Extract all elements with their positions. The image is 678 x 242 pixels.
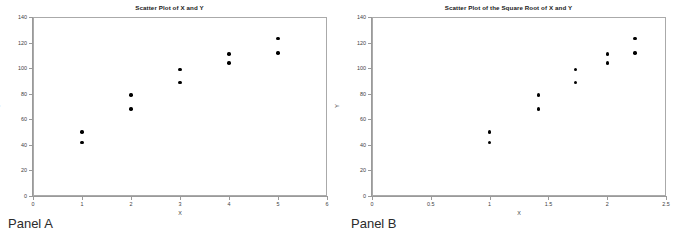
x-axis-line xyxy=(372,196,667,197)
scatter-point xyxy=(80,130,83,133)
x-tick-mark xyxy=(278,197,279,200)
y-tick-label: 140 xyxy=(347,14,366,20)
x-tick-mark xyxy=(607,197,608,200)
x-tick-label: 2 xyxy=(606,201,609,207)
y-tick-mark xyxy=(29,170,32,171)
y-tick-mark xyxy=(368,94,371,95)
y-tick-mark xyxy=(368,119,371,120)
plot-area-panel-b xyxy=(372,17,666,196)
x-tick-mark xyxy=(131,197,132,200)
panel-b: Scatter Plot of the Square Root of X and… xyxy=(339,0,678,242)
x-tick-label: 1 xyxy=(81,201,84,207)
scatter-point xyxy=(80,141,83,144)
x-tick-mark xyxy=(82,197,83,200)
y-tick-mark xyxy=(368,43,371,44)
x-tick-label: 5 xyxy=(277,201,280,207)
x-tick-mark xyxy=(372,197,373,200)
y-tick-mark xyxy=(29,17,32,18)
scatter-point xyxy=(129,93,132,96)
panel-caption: Panel B xyxy=(351,216,397,231)
x-tick-mark xyxy=(548,197,549,200)
x-tick-mark xyxy=(327,197,328,200)
y-tick-mark xyxy=(29,196,32,197)
y-tick-mark xyxy=(29,119,32,120)
x-tick-label: 6 xyxy=(326,201,329,207)
scatter-point xyxy=(129,107,132,110)
x-tick-label: 3 xyxy=(179,201,182,207)
scatter-point xyxy=(488,130,491,133)
y-tick-label: 40 xyxy=(8,142,27,148)
y-tick-label: 80 xyxy=(8,91,27,97)
chart-title: Scatter Plot of the Square Root of X and… xyxy=(339,3,678,12)
x-tick-label: 2.5 xyxy=(662,201,670,207)
scatter-point xyxy=(606,52,609,55)
chart-title: Scatter Plot of X and Y xyxy=(0,3,339,12)
y-tick-label: 20 xyxy=(8,167,27,173)
y-axis-line xyxy=(32,17,33,197)
x-tick-mark xyxy=(666,197,667,200)
scatter-point xyxy=(227,52,230,55)
scatter-point xyxy=(178,68,181,71)
y-tick-label: 60 xyxy=(8,116,27,122)
y-tick-mark xyxy=(29,68,32,69)
scatter-point xyxy=(227,61,230,64)
panel-a: Scatter Plot of X and Y Y X 020406080100… xyxy=(0,0,339,242)
x-tick-mark xyxy=(229,197,230,200)
y-tick-mark xyxy=(368,145,371,146)
y-axis-label: Y xyxy=(334,104,340,108)
x-tick-label: 1.5 xyxy=(545,201,553,207)
y-tick-label: 40 xyxy=(347,142,366,148)
x-tick-mark xyxy=(431,197,432,200)
x-tick-label: 0 xyxy=(371,201,374,207)
y-tick-mark xyxy=(368,17,371,18)
y-tick-mark xyxy=(368,170,371,171)
panel-caption: Panel A xyxy=(8,216,53,231)
y-tick-label: 140 xyxy=(8,14,27,20)
y-tick-label: 120 xyxy=(347,40,366,46)
y-tick-label: 100 xyxy=(347,65,366,71)
y-tick-mark xyxy=(29,94,32,95)
y-tick-label: 0 xyxy=(347,193,366,199)
scatter-point xyxy=(606,61,609,64)
x-tick-label: 0.5 xyxy=(427,201,435,207)
scatter-point xyxy=(537,93,540,96)
y-tick-label: 0 xyxy=(8,193,27,199)
y-tick-label: 60 xyxy=(347,116,366,122)
y-tick-mark xyxy=(368,196,371,197)
y-tick-label: 80 xyxy=(347,91,366,97)
y-tick-label: 100 xyxy=(8,65,27,71)
x-tick-mark xyxy=(490,197,491,200)
y-tick-mark xyxy=(29,145,32,146)
y-axis-label: Y xyxy=(0,104,1,108)
x-tick-mark xyxy=(33,197,34,200)
x-tick-label: 0 xyxy=(32,201,35,207)
scatter-point xyxy=(276,51,279,54)
y-tick-label: 120 xyxy=(8,40,27,46)
y-tick-mark xyxy=(368,68,371,69)
x-tick-label: 1 xyxy=(488,201,491,207)
x-tick-label: 2 xyxy=(130,201,133,207)
x-axis-label: X xyxy=(372,210,666,216)
y-axis-line xyxy=(371,17,372,197)
y-tick-mark xyxy=(29,43,32,44)
plot-area-panel-a xyxy=(33,17,327,196)
scatter-point xyxy=(633,51,636,54)
x-tick-label: 4 xyxy=(228,201,231,207)
y-tick-label: 20 xyxy=(347,167,366,173)
scatter-point xyxy=(537,107,540,110)
x-axis-label: X xyxy=(33,210,327,216)
two-panel-scatter-figure: Scatter Plot of X and Y Y X 020406080100… xyxy=(0,0,678,242)
scatter-point xyxy=(178,81,181,84)
x-tick-mark xyxy=(180,197,181,200)
